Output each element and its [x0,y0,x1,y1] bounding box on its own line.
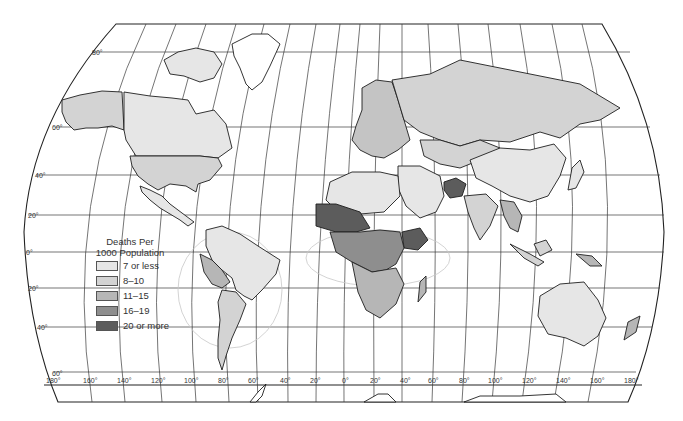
svg-text:40°: 40° [35,172,46,179]
svg-text:160°: 160° [590,377,605,384]
landmasses [62,34,640,402]
region-mexico [140,186,194,226]
svg-text:20°: 20° [310,377,321,384]
legend-label: 11–15 [123,290,149,301]
legend-swatch [96,306,118,316]
svg-text:20°: 20° [28,285,39,292]
world-map: 180° 160° 140° 120° 100° 80° 60° 40° 20°… [0,0,683,421]
region-se-asia [500,200,522,232]
region-argentina [218,290,246,370]
region-new-guinea [576,254,602,266]
region-middle-east [398,166,444,218]
svg-text:140°: 140° [117,377,132,384]
region-new-zealand [624,316,640,340]
region-antarctica-east [464,394,566,402]
region-antarctic-peninsula [250,384,266,402]
legend-swatch [96,291,118,301]
legend-item: 20 or more [96,318,206,333]
legend-swatch [96,276,118,286]
region-india [464,194,498,240]
region-ethiopia [402,228,428,250]
legend-label: 20 or more [123,320,169,331]
svg-text:40°: 40° [400,377,411,384]
svg-text:0°: 0° [342,377,349,384]
svg-text:60°: 60° [52,124,63,131]
region-greenland [232,34,280,90]
region-arctic-islands [164,48,222,82]
svg-text:140°: 140° [556,377,571,384]
legend-label: 16–19 [123,305,149,316]
svg-text:120°: 120° [522,377,537,384]
legend-item: 16–19 [96,303,206,318]
svg-text:180°: 180° [624,377,639,384]
region-afghanistan [444,178,466,198]
svg-text:80°: 80° [218,377,229,384]
region-borneo [534,240,552,256]
svg-text:60°: 60° [52,370,63,377]
svg-text:20°: 20° [28,212,39,219]
svg-text:60°: 60° [248,377,259,384]
svg-text:40°: 40° [37,324,48,331]
legend-title-line1: Deaths Per [88,236,172,247]
svg-text:20°: 20° [370,377,381,384]
longitude-labels: 180° 160° 140° 120° 100° 80° 60° 40° 20°… [46,377,639,384]
svg-text:100°: 100° [488,377,503,384]
svg-text:80°: 80° [459,377,470,384]
legend-item: 7 or less [96,258,206,273]
legend-label: 7 or less [123,260,159,271]
region-madagascar [418,276,426,302]
region-central-africa [330,230,404,272]
svg-text:40°: 40° [280,377,291,384]
legend-item: 8–10 [96,273,206,288]
region-russia [392,60,620,146]
legend: Deaths Per 1000 Population 7 or less 8–1… [96,236,206,333]
region-japan [568,160,584,190]
region-canada [124,92,232,158]
legend-title-line2: 1000 Population [88,247,172,258]
svg-text:120°: 120° [151,377,166,384]
region-australia [538,282,606,346]
svg-text:80°: 80° [92,49,103,56]
svg-text:100°: 100° [184,377,199,384]
svg-text:160°: 160° [83,377,98,384]
svg-text:180°: 180° [46,377,61,384]
region-brazil [206,226,280,300]
legend-swatch [96,261,118,271]
region-usa [130,156,222,192]
svg-text:0°: 0° [26,249,33,256]
region-alaska [62,91,124,130]
legend-item: 11–15 [96,288,206,303]
legend-label: 8–10 [123,275,144,286]
svg-text:60°: 60° [428,377,439,384]
region-antarctica [364,394,396,402]
legend-swatch [96,321,118,331]
